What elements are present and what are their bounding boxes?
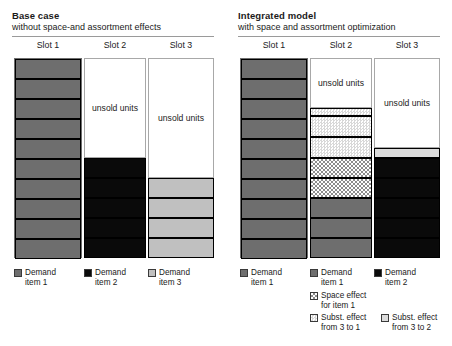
legend-label: Demand item 2	[385, 268, 416, 287]
legend-item-demand-item-1-slot2: Demand item 1	[310, 268, 372, 287]
legend-item-demand-item-1: Demand item 1	[14, 268, 76, 287]
legend-item-demand-item-2: Demand item 2	[374, 268, 440, 287]
band-demand-item-1	[15, 139, 81, 159]
unsold-units-block: unsold units	[84, 58, 146, 158]
band-demand-item-1	[15, 239, 81, 259]
legend-item-space-effect: Space effect for item 1	[310, 291, 380, 310]
band-demand-item-1	[241, 199, 307, 219]
legend-item-demand-item-3: Demand item 3	[148, 268, 214, 287]
band-demand-item-1	[310, 238, 372, 258]
slot-header-1: Slot 1	[240, 40, 308, 50]
legend-swatch-icon	[374, 269, 382, 277]
slot-header-1: Slot 1	[14, 40, 82, 50]
band-demand-item-2	[84, 158, 146, 178]
band-demand-item-1	[241, 119, 307, 139]
band-demand-item-2	[374, 198, 440, 218]
bar-column-slot-1	[240, 58, 308, 258]
band-demand-item-3	[148, 178, 214, 198]
band-demand-item-1	[241, 139, 307, 159]
band-demand-item-3	[148, 198, 214, 218]
band-demand-item-1	[310, 198, 372, 218]
band-space-effect-item-1	[310, 178, 372, 198]
legend-swatch-icon	[310, 292, 318, 300]
band-demand-item-1	[241, 59, 307, 79]
legend-swatch-icon	[84, 269, 92, 277]
band-demand-item-1	[310, 218, 372, 238]
band-demand-item-2	[84, 238, 146, 258]
slot-header-3: Slot 3	[374, 40, 440, 50]
band-demand-item-1	[241, 159, 307, 179]
band-demand-item-1	[15, 159, 81, 179]
unsold-units-block: unsold units	[310, 58, 372, 108]
title-divider	[238, 36, 440, 37]
page-title: Integrated model	[238, 10, 316, 21]
band-subst-effect-3-to-1	[310, 137, 372, 158]
band-demand-item-1	[15, 79, 81, 99]
band-demand-item-1	[15, 219, 81, 239]
band-subst-effect-3-to-2	[374, 148, 440, 158]
band-demand-item-2	[84, 218, 146, 238]
slot-header-2: Slot 2	[84, 40, 146, 50]
band-demand-item-2	[84, 198, 146, 218]
legend-label: Space effect for item 1	[321, 291, 366, 310]
band-demand-item-2	[374, 238, 440, 258]
legend-swatch-icon	[310, 269, 318, 277]
bar-column-slot-2: unsold units	[84, 58, 146, 258]
legend-swatch-icon	[148, 269, 156, 277]
page-title: Base case	[12, 10, 59, 21]
bar-column-slot-3: unsold units	[148, 58, 214, 258]
title-divider	[12, 36, 214, 37]
band-subst-effect-3-to-1	[310, 116, 372, 137]
band-demand-item-2	[374, 218, 440, 238]
band-demand-item-1	[15, 199, 81, 219]
legend-swatch-icon	[381, 314, 389, 322]
band-demand-item-1	[15, 99, 81, 119]
legend-label: Demand item 3	[159, 268, 190, 287]
legend-item-demand-item-1: Demand item 1	[240, 268, 302, 287]
unsold-units-block: unsold units	[374, 58, 440, 148]
unsold-units-block: unsold units	[148, 58, 214, 178]
panel-integrated-model: Integrated model with space and assortme…	[226, 0, 452, 346]
legend-label: Demand item 2	[95, 268, 126, 287]
band-demand-item-2	[84, 178, 146, 198]
page-subtitle: with space and assortment optimization	[238, 22, 396, 32]
band-demand-item-1	[241, 219, 307, 239]
band-demand-item-3	[148, 218, 214, 238]
legend-swatch-icon	[310, 314, 318, 322]
legend-label: Subst. effect from 3 to 1	[321, 313, 366, 332]
band-subst-effect-3-to-1	[310, 108, 372, 116]
legend-item-subst-3-to-1: Subst. effect from 3 to 1	[310, 313, 380, 332]
band-demand-item-1	[15, 119, 81, 139]
band-demand-item-1	[241, 79, 307, 99]
band-demand-item-2	[374, 178, 440, 198]
bar-column-slot-1	[14, 58, 82, 258]
bar-column-slot-3: unsold units	[374, 58, 440, 258]
legend-swatch-icon	[14, 269, 22, 277]
slot-header-2: Slot 2	[310, 40, 372, 50]
band-demand-item-3	[148, 238, 214, 258]
legend-label: Demand item 1	[251, 268, 282, 287]
legend-label: Demand item 1	[25, 268, 56, 287]
band-demand-item-1	[241, 239, 307, 259]
band-demand-item-1	[15, 59, 81, 79]
legend-swatch-icon	[240, 269, 248, 277]
band-demand-item-1	[15, 179, 81, 199]
legend-item-demand-item-2: Demand item 2	[84, 268, 146, 287]
legend-label: Demand item 1	[321, 268, 352, 287]
band-demand-item-2	[374, 158, 440, 178]
bar-column-slot-2: unsold units	[310, 58, 372, 258]
band-demand-item-1	[241, 99, 307, 119]
band-space-effect-item-1	[310, 158, 372, 178]
slot-header-3: Slot 3	[148, 40, 214, 50]
band-demand-item-1	[241, 179, 307, 199]
page-subtitle: without space-and assortment effects	[12, 22, 161, 32]
legend-item-subst-3-to-2: Subst. effect from 3 to 2	[381, 313, 451, 332]
panel-base-case: Base case without space-and assortment e…	[0, 0, 226, 346]
legend-label: Subst. effect from 3 to 2	[392, 313, 437, 332]
